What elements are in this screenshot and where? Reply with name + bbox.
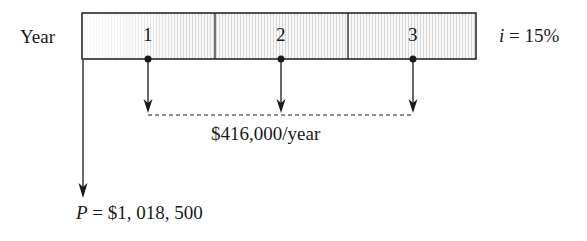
interest-rate-value: = 15% — [504, 25, 559, 46]
annuity-arrow-year-1 — [144, 56, 153, 114]
present-value-label: P = $1, 018, 500 — [76, 203, 203, 222]
axis-label-year: Year — [20, 27, 55, 46]
present-value-amount: = $1, 018, 500 — [88, 202, 203, 223]
annuity-arrow-year-2 — [277, 56, 286, 114]
present-value-var: P — [76, 202, 88, 223]
period-label-2: 2 — [276, 25, 286, 44]
period-label-1: 1 — [143, 25, 153, 44]
period-label-3: 3 — [408, 25, 418, 44]
interest-rate-label: i = 15% — [499, 26, 559, 45]
present-value-arrow — [79, 60, 88, 198]
annuity-arrow-year-3 — [409, 56, 418, 114]
annuity-amount-label: $416,000/year — [211, 124, 320, 143]
